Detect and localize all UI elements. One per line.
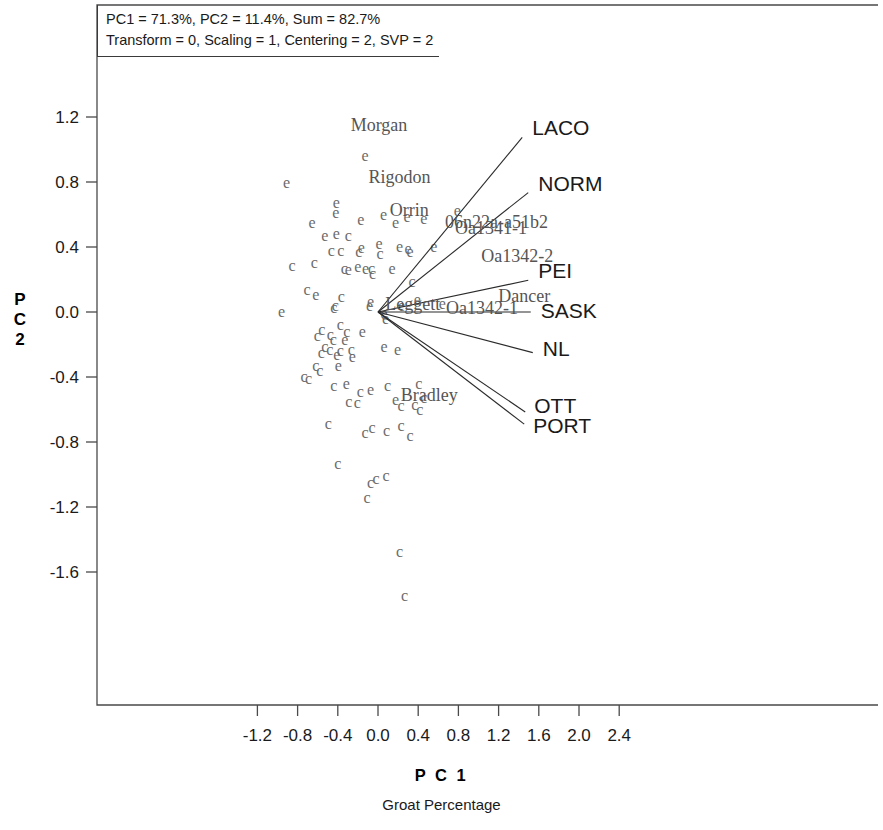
x-axis-tick-label: -1.2: [243, 726, 272, 745]
y-axis-tick-label: 1.2: [55, 108, 79, 127]
y-axis-title-char-1: C: [6, 310, 34, 330]
data-point-c: c: [305, 370, 312, 387]
biplot-canvas: -1.2-0.8-0.40.00.40.81.21.62.02.41.20.80…: [0, 0, 883, 830]
data-point-e: e: [343, 375, 350, 392]
data-point-c: c: [369, 265, 376, 282]
x-axis-tick-label: 0.8: [447, 726, 471, 745]
data-point-c: c: [382, 467, 389, 484]
data-point-e: e: [380, 338, 387, 355]
y-axis-tick-label: 0.8: [55, 173, 79, 192]
data-point-c: c: [289, 257, 296, 274]
genotype-label: Rigodon: [369, 167, 431, 187]
data-point-e: e: [367, 381, 374, 398]
data-point-e: e: [357, 211, 364, 228]
data-point-e: e: [335, 357, 342, 374]
data-point-c: c: [383, 422, 390, 439]
data-point-c: c: [314, 327, 321, 344]
data-point-c: c: [354, 394, 361, 411]
x-axis-tick-label: 2.4: [607, 726, 631, 745]
y-axis-tick-label: 0.0: [55, 303, 79, 322]
data-point-e: e: [366, 297, 373, 314]
plot-border: [97, 5, 878, 705]
data-point-e: e: [321, 227, 328, 244]
genotype-label: Orrin: [390, 200, 429, 220]
data-point-e: e: [332, 204, 339, 221]
y-axis-title-char-2: 2: [6, 330, 34, 350]
data-point-c: c: [384, 377, 391, 394]
data-point-e: e: [312, 286, 319, 303]
data-point-e: e: [283, 174, 290, 191]
x-axis-tick-label: -0.8: [283, 726, 312, 745]
environment-labels: LACONORMPEISASKNLOTTPORT: [532, 116, 602, 437]
data-point-c: c: [334, 455, 341, 472]
x-axis-tick-label: 1.2: [487, 726, 511, 745]
genotype-label: Morgan: [351, 115, 408, 135]
data-point-c: c: [325, 415, 332, 432]
data-point-c: c: [316, 362, 323, 379]
data-point-c: c: [326, 341, 333, 358]
y-axis-tick-label: -0.4: [50, 368, 79, 387]
data-point-e: e: [278, 303, 285, 320]
genotype-label: Oa1342-2: [481, 246, 553, 266]
data-point-c: c: [311, 254, 318, 271]
data-point-e: e: [430, 238, 437, 255]
vector-label-laco: LACO: [532, 116, 589, 139]
data-point-c: c: [355, 243, 362, 260]
x-axis-tick-label: 2.0: [567, 726, 591, 745]
data-point-c: c: [368, 419, 375, 436]
data-point-e: e: [359, 323, 366, 340]
y-axis-title-char-0: P: [6, 290, 34, 310]
y-axis-tick-label: -0.8: [50, 433, 79, 452]
data-point-c: c: [328, 242, 335, 259]
data-point-c: c: [372, 470, 379, 487]
data-point-e: e: [389, 260, 396, 277]
data-point-c: c: [330, 299, 337, 316]
data-points: eeeeeeeeeeeeceeecccceeeeccceeeccececccee…: [278, 147, 461, 604]
data-point-e: e: [309, 214, 316, 231]
genotype-label: Leggett: [385, 294, 440, 314]
x-axis-subtitle: Groat Percentage: [0, 796, 883, 813]
x-axis-tick-label: 0.0: [366, 726, 390, 745]
vector-label-port: PORT: [533, 414, 591, 437]
genotype-label: Oa1342-1: [446, 298, 518, 318]
data-point-c: c: [345, 227, 352, 244]
y-axis-tick-label: 0.4: [55, 238, 79, 257]
data-point-e: e: [361, 147, 368, 164]
data-point-e: e: [380, 206, 387, 223]
vector-label-nl: NL: [543, 337, 570, 360]
annotation-line-1: PC1 = 71.3%, PC2 = 11.4%, Sum = 82.7%: [106, 9, 433, 30]
y-axis-tick-label: -1.2: [50, 498, 79, 517]
y-axis-tick-label: -1.6: [50, 563, 79, 582]
data-point-e: e: [333, 225, 340, 242]
data-point-c: c: [304, 281, 311, 298]
data-point-c: c: [330, 377, 337, 394]
genotype-label: Bradley: [401, 385, 458, 405]
data-point-c: c: [398, 417, 405, 434]
x-axis-tick-label: 1.6: [527, 726, 551, 745]
data-point-c: c: [363, 489, 370, 506]
plot-frame: [97, 5, 878, 705]
data-point-c: c: [337, 242, 344, 259]
x-axis-tick-label: 0.4: [406, 726, 430, 745]
data-point-c: c: [407, 427, 414, 444]
data-point-c: c: [401, 587, 408, 604]
x-axis-title: P C 1: [0, 766, 883, 785]
data-point-e: e: [396, 238, 403, 255]
data-point-c: c: [376, 245, 383, 262]
vector-label-norm: NORM: [538, 172, 602, 195]
genotype-label: Oa1341-1: [455, 218, 527, 238]
data-point-c: c: [345, 393, 352, 410]
data-point-e: e: [345, 261, 352, 278]
annotation-line-2: Transform = 0, Scaling = 1, Centering = …: [106, 30, 433, 51]
x-axis-tick-label: -0.4: [323, 726, 352, 745]
biplot-figure: -1.2-0.8-0.40.00.40.81.21.62.02.41.20.80…: [0, 0, 883, 830]
parameter-annotation: PC1 = 71.3%, PC2 = 11.4%, Sum = 82.7% Tr…: [97, 5, 439, 57]
data-point-e: e: [349, 348, 356, 365]
data-point-e: e: [354, 258, 361, 275]
data-point-c: c: [396, 543, 403, 560]
y-axis-title: P C 2: [6, 290, 34, 350]
data-point-e: e: [394, 341, 401, 358]
data-point-e: e: [407, 243, 414, 260]
